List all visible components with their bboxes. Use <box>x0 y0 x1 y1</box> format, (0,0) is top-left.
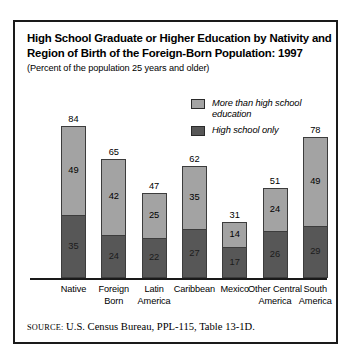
title-line-1: High School Graduate or Higher Education… <box>27 31 325 46</box>
bar-group: 784929 <box>303 137 328 278</box>
source-label: SOURCE: <box>27 323 63 332</box>
bar-segment-label: 26 <box>270 250 280 259</box>
chart-title: High School Graduate or Higher Education… <box>27 31 325 60</box>
bar-group: 512426 <box>263 188 288 278</box>
bar-segment-label: 49 <box>310 177 320 186</box>
x-axis-label: SouthAmerica <box>287 284 343 307</box>
bar-total-label: 62 <box>182 154 207 166</box>
bar-segment-more-than-high-school: 42 <box>101 159 126 235</box>
bar-segment-label: 17 <box>230 258 240 267</box>
bar-segment-high-school-only: 26 <box>263 231 288 278</box>
bar-segment-label: 14 <box>230 230 240 239</box>
bar-segment-high-school-only: 17 <box>222 247 247 278</box>
bar-segment-more-than-high-school: 49 <box>61 126 86 215</box>
bar-segment-label: 22 <box>149 253 159 262</box>
bar-segment-high-school-only: 24 <box>101 235 126 278</box>
bar-segment-more-than-high-school: 35 <box>182 166 207 229</box>
legend-label: More than high school <box>212 98 331 109</box>
legend-item-more-than-high-school: More than high schooleducation <box>191 98 331 120</box>
bar-segment-high-school-only: 29 <box>303 226 328 278</box>
bar-segment-more-than-high-school: 24 <box>263 188 288 231</box>
bar-group: 844935 <box>61 126 86 278</box>
bar-segment-label: 24 <box>270 205 280 214</box>
bar-segment-label: 25 <box>149 211 159 220</box>
bar-segment-label: 29 <box>310 247 320 256</box>
bar-group: 623527 <box>182 166 207 278</box>
x-axis-label-line: America <box>287 296 343 308</box>
bar-total-label: 31 <box>222 210 247 222</box>
bar-segment-label: 42 <box>109 192 119 201</box>
bar-segment-high-school-only: 35 <box>61 215 86 278</box>
bar-segment-label: 35 <box>68 242 78 251</box>
bar-total-label: 47 <box>142 181 167 193</box>
chart-subtitle: (Percent of the population 25 years and … <box>27 63 209 73</box>
bar-segment-high-school-only: 22 <box>142 238 167 278</box>
bar-segment-label: 24 <box>109 252 119 261</box>
plot-area: 8449356542244725226235273114175124267849… <box>30 126 327 280</box>
bar-total-label: 84 <box>61 114 86 126</box>
bar-segment-label: 49 <box>68 166 78 175</box>
source-note: SOURCE: U.S. Census Bureau, PPL-115, Tab… <box>27 321 255 332</box>
x-axis-label-line: America <box>126 296 182 308</box>
bar-total-label: 78 <box>303 125 328 137</box>
title-line-2: Region of Birth of the Foreign-Born Popu… <box>27 46 325 61</box>
legend-swatch-more-than-high-school <box>191 99 205 109</box>
legend-label-cont: education <box>212 109 331 120</box>
bar-segment-more-than-high-school: 49 <box>303 137 328 226</box>
x-axis-label-line: South <box>287 284 343 296</box>
bar-segment-more-than-high-school: 14 <box>222 222 247 247</box>
bar-total-label: 65 <box>101 147 126 159</box>
bar-segment-high-school-only: 27 <box>182 229 207 278</box>
source-text: U.S. Census Bureau, PPL-115, Table 13-1D… <box>66 321 255 332</box>
bar-segment-label: 35 <box>189 193 199 202</box>
x-axis-labels: NativeForeignBornLatinAmericaCaribbeanMe… <box>30 284 330 318</box>
bar-group: 472522 <box>142 193 167 278</box>
bar-group: 654224 <box>101 159 126 278</box>
bar-group: 311417 <box>222 222 247 278</box>
bar-segment-more-than-high-school: 25 <box>142 193 167 238</box>
bar-total-label: 51 <box>263 176 288 188</box>
axis-baseline <box>30 278 327 280</box>
bar-segment-label: 27 <box>189 249 199 258</box>
figure-panel: High School Graduate or Higher Education… <box>13 20 338 344</box>
